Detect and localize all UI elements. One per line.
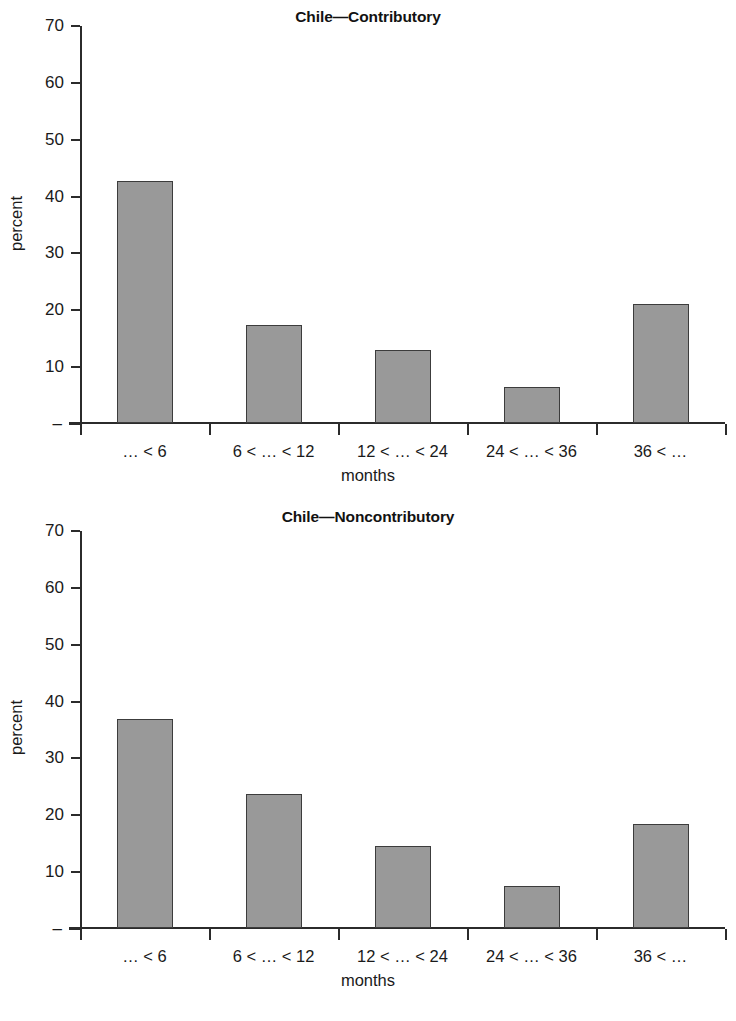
y-axis-tick-label: 20 [45, 300, 64, 320]
x-axis-tick [338, 424, 340, 435]
x-axis-category-label: … < 6 [80, 442, 209, 461]
bar [246, 325, 302, 423]
y-axis-tick: 70 [71, 530, 80, 532]
y-axis-tick: 60 [71, 82, 80, 84]
plot-area: –10203040506070 [80, 531, 725, 929]
y-axis-tick: – [67, 928, 80, 930]
y-axis-tick: 30 [71, 757, 80, 759]
x-axis-tick [725, 929, 727, 940]
y-axis-tick-label: – [53, 919, 62, 939]
y-axis-tick: 40 [71, 701, 80, 703]
bar [117, 181, 173, 423]
x-axis-category-label: 12 < … < 24 [338, 947, 467, 966]
x-axis-tick [596, 424, 598, 435]
y-axis-tick-mark [69, 422, 80, 425]
y-axis-tick: 10 [71, 366, 80, 368]
chart-title: Chile—Noncontributory [0, 508, 736, 526]
plot-area: –10203040506070 [80, 26, 725, 424]
y-axis-tick-label: 60 [45, 578, 64, 598]
x-axis-category-label: 6 < … < 12 [209, 947, 338, 966]
y-axis-tick: – [67, 423, 80, 425]
chart-panel-contributory: Chile—Contributory percent –102030405060… [0, 0, 736, 500]
y-axis-tick: 50 [71, 644, 80, 646]
y-axis-tick: 10 [71, 871, 80, 873]
y-axis-tick-label: 60 [45, 73, 64, 93]
x-axis-tick [80, 424, 82, 435]
y-axis-tick-label: 40 [45, 187, 64, 207]
bar [246, 794, 302, 928]
y-axis-tick-label: 50 [45, 130, 64, 150]
y-axis-tick-label: 10 [45, 862, 64, 882]
y-axis-tick-label: 30 [45, 748, 64, 768]
y-axis-tick: 60 [71, 587, 80, 589]
x-axis-tick [80, 929, 82, 940]
x-axis-tick [467, 424, 469, 435]
figure: Chile—Contributory percent –102030405060… [0, 0, 736, 1021]
y-axis-tick: 20 [71, 309, 80, 311]
x-axis-category-label: 36 < … [596, 947, 725, 966]
y-axis-tick: 70 [71, 25, 80, 27]
y-axis-tick-label: 40 [45, 692, 64, 712]
x-axis-category-label: 24 < … < 36 [467, 947, 596, 966]
y-axis-tick-label: 20 [45, 805, 64, 825]
chart-panel-noncontributory: Chile—Noncontributory percent –102030405… [0, 500, 736, 1021]
y-axis-title: percent [7, 698, 26, 758]
bar [375, 846, 431, 928]
chart-title: Chile—Contributory [0, 8, 736, 26]
x-axis-category-label: 36 < … [596, 442, 725, 461]
bar [504, 387, 560, 423]
y-axis-tick: 40 [71, 196, 80, 198]
y-axis-tick-label: 70 [45, 521, 64, 541]
y-axis-tick-label: 30 [45, 243, 64, 263]
x-axis-category-label: 24 < … < 36 [467, 442, 596, 461]
y-axis-tick-label: 50 [45, 635, 64, 655]
x-axis-category-label: … < 6 [80, 947, 209, 966]
y-axis-tick: 50 [71, 139, 80, 141]
bar [633, 824, 689, 928]
y-axis-tick-label: 70 [45, 16, 64, 36]
x-axis-tick [209, 929, 211, 940]
bar [504, 886, 560, 928]
y-axis-tick-mark [69, 927, 80, 930]
y-axis-line [80, 26, 82, 424]
x-axis-category-label: 6 < … < 12 [209, 442, 338, 461]
x-axis-tick [338, 929, 340, 940]
x-axis-category-label: 12 < … < 24 [338, 442, 467, 461]
x-axis-title: months [0, 466, 736, 485]
x-axis-tick [209, 424, 211, 435]
bar [633, 304, 689, 423]
x-axis-tick [467, 929, 469, 940]
y-axis-tick: 20 [71, 814, 80, 816]
y-axis-tick-label: 10 [45, 357, 64, 377]
bar [117, 719, 173, 928]
y-axis-title: percent [7, 194, 26, 254]
y-axis-tick: 30 [71, 252, 80, 254]
y-axis-tick-label: – [53, 414, 62, 434]
x-axis-tick [596, 929, 598, 940]
bar [375, 350, 431, 423]
x-axis-tick [725, 424, 727, 435]
y-axis-line [80, 531, 82, 929]
x-axis-title: months [0, 971, 736, 990]
